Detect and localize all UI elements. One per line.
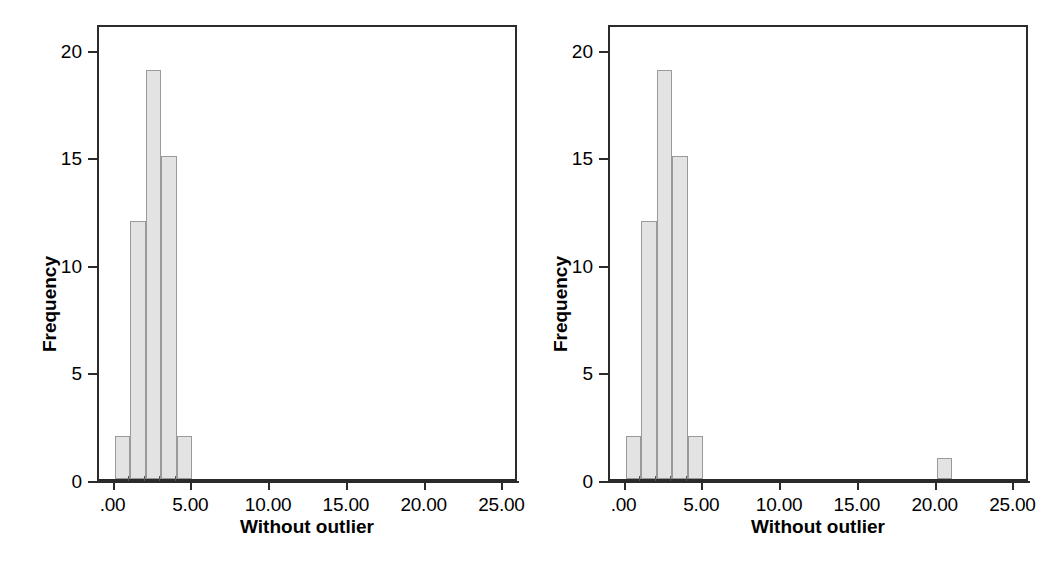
x-axis-tick-label: 20.00 [400, 494, 447, 516]
y-axis-tick [88, 266, 97, 268]
x-axis-tick [701, 481, 703, 490]
histogram-bar [161, 156, 177, 479]
plot-frame-right [608, 25, 1028, 481]
histogram-bar [688, 436, 704, 479]
x-axis-tick [857, 481, 859, 490]
x-axis-minor-tick [175, 476, 176, 481]
y-axis-tick-label: 15 [548, 148, 593, 170]
x-axis-tick [779, 481, 781, 490]
histogram-bar [937, 458, 953, 480]
x-axis-tick-label: 10.00 [245, 494, 292, 516]
y-axis-title-left: Frequency [39, 256, 61, 352]
histogram-bar [657, 70, 673, 479]
y-axis-tick [88, 481, 97, 483]
x-axis-tick [346, 481, 348, 490]
y-axis-tick [88, 51, 97, 53]
x-axis-minor-tick [639, 476, 640, 481]
x-axis-tick [501, 481, 503, 490]
y-axis-tick [599, 481, 608, 483]
y-axis-tick-label: 15 [37, 148, 82, 170]
x-axis-line-left [97, 481, 519, 483]
y-axis-tick-label: 5 [548, 363, 593, 385]
x-axis-tick [1012, 481, 1014, 490]
y-axis-tick-label: 20 [548, 41, 593, 63]
histogram-bar [641, 221, 657, 479]
x-axis-tick [935, 481, 937, 490]
y-axis-tick-label: 5 [37, 363, 82, 385]
x-axis-line-right [608, 481, 1030, 483]
histogram-panel-right: .005.0010.0015.0020.0025.0005101520 With… [525, 0, 1050, 568]
x-axis-minor-tick [655, 476, 656, 481]
y-axis-title-right: Frequency [550, 256, 572, 352]
x-axis-tick-label: 25.00 [478, 494, 525, 516]
x-axis-minor-tick [159, 476, 160, 481]
x-axis-minor-tick [144, 476, 145, 481]
y-axis-tick-label: 0 [548, 471, 593, 493]
x-axis-tick [424, 481, 426, 490]
x-axis-minor-tick [670, 476, 671, 481]
y-axis-tick-label: 0 [37, 471, 82, 493]
y-axis-tick [599, 51, 608, 53]
histogram-bar [115, 436, 131, 479]
y-axis-tick [599, 158, 608, 160]
x-axis-minor-tick [686, 476, 687, 481]
histogram-bar [146, 70, 162, 479]
x-axis-tick [113, 481, 115, 490]
histogram-bar [130, 221, 146, 479]
x-axis-tick [268, 481, 270, 490]
x-axis-tick-label: .00 [100, 494, 126, 516]
x-axis-title-left: Without outlier [240, 516, 374, 538]
y-axis-line-right [608, 25, 610, 483]
x-axis-tick-label: 15.00 [323, 494, 370, 516]
x-axis-tick-label: 10.00 [756, 494, 803, 516]
x-axis-tick-label: .00 [611, 494, 637, 516]
y-axis-tick [88, 373, 97, 375]
y-axis-tick [599, 373, 608, 375]
plot-area-left [99, 27, 515, 479]
x-axis-title-right: Without outlier [751, 516, 885, 538]
histogram-bar [672, 156, 688, 479]
x-axis-tick [190, 481, 192, 490]
y-axis-tick [599, 266, 608, 268]
x-axis-tick [624, 481, 626, 490]
y-axis-tick [88, 158, 97, 160]
y-axis-tick-label: 20 [37, 41, 82, 63]
histogram-bar [626, 436, 642, 479]
plot-area-right [610, 27, 1026, 479]
histogram-bar [177, 436, 193, 479]
plot-frame-left [97, 25, 517, 481]
x-axis-tick-label: 5.00 [683, 494, 719, 516]
x-axis-tick-label: 15.00 [834, 494, 881, 516]
x-axis-tick-label: 25.00 [989, 494, 1036, 516]
x-axis-tick-label: 20.00 [911, 494, 958, 516]
histogram-panel-left: .005.0010.0015.0020.0025.0005101520 With… [0, 0, 525, 568]
x-axis-tick-label: 5.00 [172, 494, 208, 516]
x-axis-minor-tick [128, 476, 129, 481]
y-axis-line-left [97, 25, 99, 483]
figure-root: .005.0010.0015.0020.0025.0005101520 With… [0, 0, 1050, 568]
